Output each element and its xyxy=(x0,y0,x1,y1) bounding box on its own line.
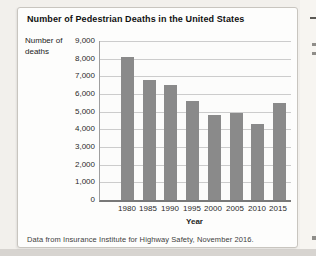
gridline xyxy=(100,41,291,42)
bar-2005 xyxy=(230,113,243,200)
x-tick-label: 2015 xyxy=(263,204,293,214)
textbook-page: { "figure": { "source_note": "Data from … xyxy=(0,0,316,256)
y-tick-label: 6,000 xyxy=(55,89,95,99)
bar-1990 xyxy=(164,85,177,200)
cutoff-text-fragment xyxy=(310,17,316,19)
y-tick-label: 2,000 xyxy=(55,160,95,170)
plot-area xyxy=(99,41,291,202)
y-tick-label: 7,000 xyxy=(55,71,95,81)
cutoff-text-fragment xyxy=(312,43,316,46)
bar-2015 xyxy=(273,103,286,200)
cutoff-text-fragment xyxy=(312,52,316,55)
chart-title: Number of Pedestrian Deaths in the Unite… xyxy=(27,14,291,25)
bar-1995 xyxy=(186,101,199,200)
y-tick-label: 9,000 xyxy=(55,36,95,46)
x-axis-title: Year xyxy=(99,217,290,226)
bar-2010 xyxy=(251,124,264,200)
bar-2000 xyxy=(208,115,221,200)
y-tick-label: 4,000 xyxy=(55,124,95,134)
source-note: Data from Insurance Institute for Highwa… xyxy=(27,235,293,244)
y-tick-label: 3,000 xyxy=(55,142,95,152)
y-tick-label: 8,000 xyxy=(55,54,95,64)
y-tick-label: 5,000 xyxy=(55,107,95,117)
cutoff-text-fragment xyxy=(312,236,316,240)
bar-1985 xyxy=(143,80,156,200)
page-section-divider xyxy=(0,249,316,256)
page-margin xyxy=(300,0,316,256)
figure-card: Number of Pedestrian Deaths in the Unite… xyxy=(17,7,298,248)
y-tick-label: 1,000 xyxy=(55,177,95,187)
y-tick-label: 0 xyxy=(55,195,95,205)
bar-1980 xyxy=(121,57,134,200)
